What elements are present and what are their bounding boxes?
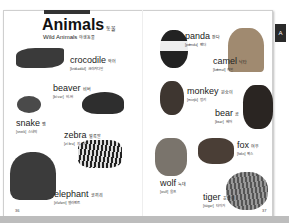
header-bar [44,10,90,14]
crocodile-image [16,48,64,68]
bear-image [243,85,273,129]
entry-fox: fox여우 [fɑks]팍스 [237,140,259,156]
entry-elephant: elephant코끼리 [éləfənt]엘러펀트 [54,189,103,205]
entry-monkey: monkey원숭이 [mʌ́ŋki]멍키 [187,86,233,102]
entry-bear: bear곰 [bɛər]베어 [215,108,239,124]
page-subtitle: Wild Animals야생동물 [43,34,95,40]
page-title: Animals동물 [42,16,116,34]
snake-image [17,96,41,113]
entry-camel: camel낙타 [kǽməl]캐멀 [213,56,247,72]
elephant-image [10,152,56,200]
page-number-left: 36 [15,208,19,213]
entry-crocodile: crocodile악어 [krɑ́kədàil]크라커다일 [70,55,116,71]
entry-snake: snake뱀 [sneik]스네익 [16,118,46,134]
entry-tiger: tiger호랑이 [táigər]타이거 [203,192,235,208]
page-number-right: 37 [262,208,266,213]
entry-wolf: wolf늑대 [wulf]울프 [160,178,186,194]
wolf-image [155,138,187,176]
entry-zebra: zebra얼룩말 [zíːbrə]지-브러 [64,130,101,146]
monkey-image [160,81,184,115]
page-spine [142,10,143,218]
fox-image [198,138,234,164]
section-tab[interactable]: A [275,24,286,42]
panda-image [160,30,188,68]
bottom-shadow [0,216,289,223]
entry-panda: panda판다 [pǽndə]팬더 [185,31,220,47]
entry-beaver: beaver비버 [bíːvər]비-버 [53,83,91,99]
